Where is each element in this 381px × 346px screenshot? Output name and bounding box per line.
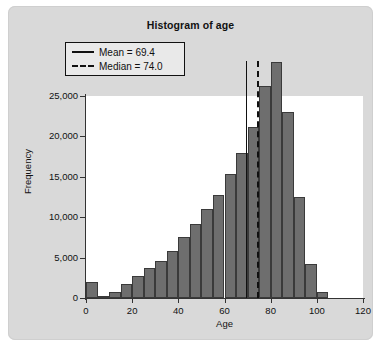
histogram-bar (190, 224, 202, 298)
histogram-bar (144, 268, 156, 298)
y-axis-tick-label: 20,000 (30, 130, 78, 141)
chart-legend: Mean = 69.4 Median = 74.0 (65, 42, 185, 76)
legend-entry-median: Median = 74.0 (72, 59, 163, 73)
x-axis-tick-label: 0 (71, 305, 101, 316)
x-axis-title: Age (86, 318, 363, 329)
y-axis-tick-label: 25,000 (30, 90, 78, 101)
histogram-bar (225, 174, 237, 298)
chart-title: Histogram of age (8, 19, 373, 31)
dashed-line-key-icon (72, 65, 94, 67)
histogram-bar (259, 86, 271, 298)
histogram-bar (305, 264, 317, 298)
x-axis-tick-label: 40 (163, 305, 193, 316)
histogram-bar (167, 251, 179, 298)
y-axis-tick-label: 10,000 (30, 211, 78, 222)
solid-line-key-icon (72, 51, 94, 53)
x-axis-tick (178, 298, 179, 303)
histogram-bar (201, 209, 213, 298)
x-axis-tick-label: 100 (302, 305, 332, 316)
histogram-bar (121, 284, 133, 298)
histogram-bar (86, 282, 98, 298)
x-axis-tick-label: 60 (210, 305, 240, 316)
histogram-bar (282, 112, 294, 298)
x-axis-tick (86, 298, 87, 303)
y-axis-tick-label: 0 (30, 292, 78, 303)
legend-label-median: Median = 74.0 (99, 61, 163, 72)
y-axis-tick-label: 5,000 (30, 252, 78, 263)
x-axis-tick (317, 298, 318, 303)
plot-area (86, 96, 363, 298)
histogram-bar (178, 237, 190, 298)
x-axis-tick (132, 298, 133, 303)
x-axis-tick (363, 298, 364, 303)
x-axis-tick-label: 120 (348, 305, 378, 316)
legend-label-mean: Mean = 69.4 (99, 47, 155, 58)
y-axis-title: Frequency (22, 117, 33, 227)
chart-figure: Histogram of age Mean = 69.4 Median = 74… (8, 6, 373, 340)
x-axis-tick (225, 298, 226, 303)
histogram-bar (294, 197, 306, 298)
legend-entry-mean: Mean = 69.4 (72, 45, 155, 59)
x-axis-tick (271, 298, 272, 303)
histogram-bar (155, 261, 167, 298)
histogram-bar (213, 195, 225, 298)
histogram-bar (132, 276, 144, 298)
mean-reference-line (246, 61, 247, 298)
x-axis-tick-label: 80 (256, 305, 286, 316)
x-axis-tick-label: 20 (117, 305, 147, 316)
y-axis-tick-label: 15,000 (30, 171, 78, 182)
median-reference-line (257, 61, 259, 298)
histogram-bar (271, 62, 283, 298)
